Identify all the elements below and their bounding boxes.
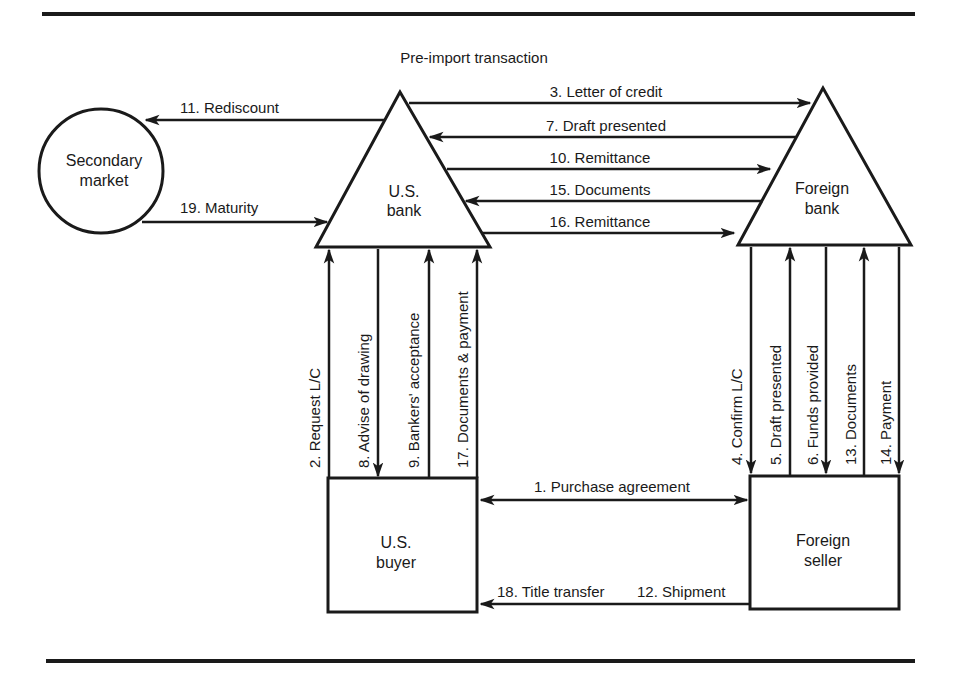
node-label: Secondary bbox=[66, 152, 143, 169]
flow-label: 6. Funds provided bbox=[804, 345, 821, 465]
flow-1-purchase-agreement: 1. Purchase agreement bbox=[481, 478, 747, 500]
flow-label: 18. Title transfer bbox=[497, 583, 605, 600]
flow-9-bankers-acceptance: 9. Bankers' acceptance bbox=[405, 250, 429, 478]
flow-15-documents: 15. Documents bbox=[466, 181, 764, 201]
flow-10-remittance: 10. Remittance bbox=[447, 149, 770, 169]
flow-16-remittance: 16. Remittance bbox=[481, 213, 734, 233]
flow-label: 1. Purchase agreement bbox=[534, 478, 691, 495]
pre-import-transaction-diagram: Pre-import transaction 3. Letter of cred… bbox=[0, 0, 959, 678]
node-label: seller bbox=[804, 552, 843, 569]
flow-label: 12. Shipment bbox=[637, 583, 726, 600]
flow-label: 19. Maturity bbox=[180, 199, 259, 216]
flow-label: 2. Request L/C bbox=[306, 368, 323, 468]
flow-3-letter-of-credit: 3. Letter of credit bbox=[409, 83, 810, 103]
node-us-buyer: U.S. buyer bbox=[328, 478, 477, 612]
flow-label: 5. Draft presented bbox=[767, 345, 784, 465]
flow-13-documents: 13. Documents bbox=[842, 248, 864, 475]
flow-label: 15. Documents bbox=[550, 181, 651, 198]
flow-4-confirm-lc: 4. Confirm L/C bbox=[728, 247, 751, 473]
flow-17-documents-and-payment: 17. Documents & payment bbox=[454, 250, 477, 478]
flow-label: 10. Remittance bbox=[550, 149, 651, 166]
flow-label: 14. Payment bbox=[877, 380, 894, 465]
flow-label: 13. Documents bbox=[842, 364, 859, 465]
node-secondary-market: Secondary market bbox=[39, 109, 163, 233]
flow-label: 7. Draft presented bbox=[546, 117, 666, 134]
circle-shape bbox=[39, 109, 163, 233]
flow-label: 16. Remittance bbox=[550, 213, 651, 230]
flow-label: 9. Bankers' acceptance bbox=[405, 313, 422, 468]
node-label: Foreign bbox=[796, 532, 850, 549]
node-label: U.S. bbox=[380, 534, 411, 551]
node-label: Foreign bbox=[795, 180, 849, 197]
flow-label: 4. Confirm L/C bbox=[728, 368, 745, 465]
flow-label: 17. Documents & payment bbox=[454, 290, 471, 468]
node-label: U.S. bbox=[388, 183, 419, 200]
node-label: bank bbox=[387, 202, 423, 219]
flow-5-draft-presented: 5. Draft presented bbox=[767, 248, 790, 475]
flow-label: 8. Advise of drawing bbox=[355, 334, 372, 468]
flow-6-funds-provided: 6. Funds provided bbox=[804, 247, 826, 473]
flow-2-request-lc: 2. Request L/C bbox=[306, 250, 329, 478]
node-label: buyer bbox=[376, 554, 417, 571]
flow-18-12-title-transfer-shipment: 18. Title transfer 12. Shipment bbox=[481, 583, 749, 604]
flow-19-maturity: 19. Maturity bbox=[142, 199, 327, 222]
flow-8-advise-of-drawing: 8. Advise of drawing bbox=[355, 249, 378, 476]
node-label: market bbox=[80, 172, 129, 189]
flow-label: 3. Letter of credit bbox=[550, 83, 663, 100]
node-label: bank bbox=[805, 200, 841, 217]
flow-label: 11. Rediscount bbox=[180, 99, 280, 116]
flow-14-payment: 14. Payment bbox=[877, 247, 899, 473]
diagram-title: Pre-import transaction bbox=[400, 49, 548, 66]
flow-7-draft-presented: 7. Draft presented bbox=[430, 117, 796, 137]
triangle-shape bbox=[738, 88, 911, 245]
node-foreign-bank: Foreign bank bbox=[738, 88, 911, 245]
node-foreign-seller: Foreign seller bbox=[750, 476, 899, 609]
flow-11-rediscount: 11. Rediscount bbox=[146, 99, 384, 120]
